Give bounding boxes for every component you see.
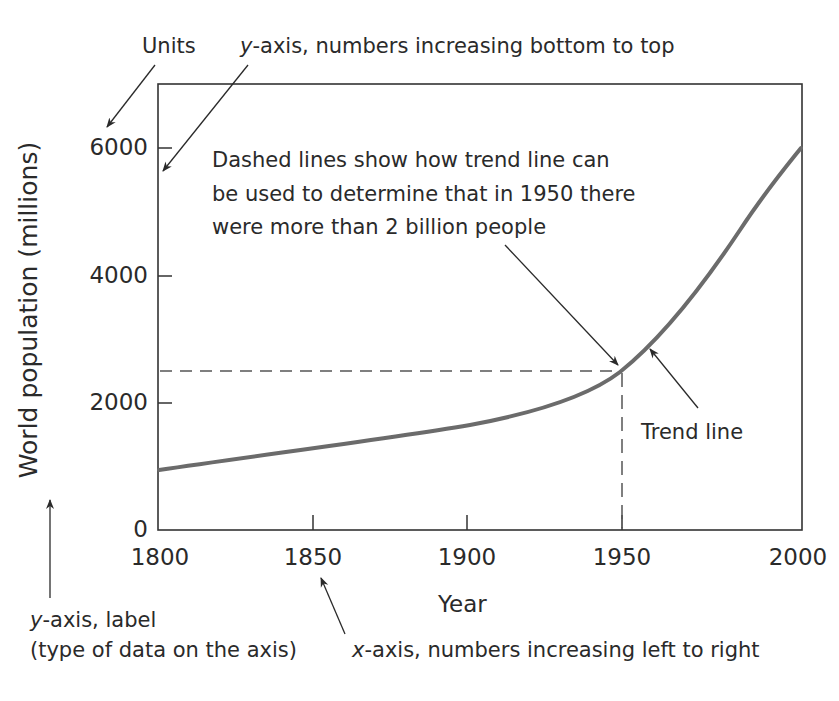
x-axis-annotation-text: -axis, numbers increasing left to right [364, 638, 759, 662]
x-axis-annotation-var: x [352, 638, 364, 662]
y-axis-ticks [158, 148, 172, 403]
x-axis-arrow [321, 578, 345, 634]
y-label-annotation-text: -axis, label [42, 608, 156, 632]
x-tick-1800: 1800 [120, 546, 200, 569]
y-axis-annotation: y-axis, numbers increasing bottom to top [240, 36, 675, 57]
units-annotation: Units [142, 36, 196, 57]
units-arrow [107, 65, 155, 127]
x-tick-1850: 1850 [273, 546, 353, 569]
x-axis-ticks [313, 515, 622, 530]
y-axis-title-text: World population (millions) [14, 142, 43, 478]
y-axis-title: World population (millions) [8, 0, 48, 701]
y-tick-0: 0 [58, 518, 148, 541]
y-tick-4000: 4000 [58, 264, 148, 287]
y-axis-annotation-text: -axis, numbers increasing bottom to top [252, 34, 674, 58]
trend-line-label: Trend line [641, 422, 743, 443]
chart-canvas [0, 0, 839, 701]
x-tick-1900: 1900 [427, 546, 507, 569]
y-axis-annotation-var: y [240, 34, 252, 58]
x-tick-1950: 1950 [582, 546, 662, 569]
callout-arrow [505, 245, 618, 365]
y-tick-6000: 6000 [58, 136, 148, 159]
y-label-annotation-line-2: (type of data on the axis) [30, 640, 297, 661]
x-axis-annotation: x-axis, numbers increasing left to right [352, 640, 760, 661]
y-label-annotation-line-1: y-axis, label [30, 610, 156, 631]
trend-line-arrow [650, 349, 698, 408]
y-tick-2000: 2000 [58, 391, 148, 414]
callout-line-1: Dashed lines show how trend line can [212, 150, 610, 171]
x-tick-2000: 2000 [758, 546, 838, 569]
callout-line-2: be used to determine that in 1950 there [212, 184, 636, 205]
y-label-annotation-var: y [30, 608, 42, 632]
x-axis-title: Year [438, 593, 487, 616]
callout-line-3: were more than 2 billion people [212, 217, 546, 238]
